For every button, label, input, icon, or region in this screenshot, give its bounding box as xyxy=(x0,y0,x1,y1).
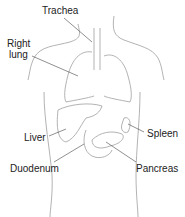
body-outline-right xyxy=(113,16,164,80)
spleen-leader xyxy=(128,124,144,132)
pancreas-leader xyxy=(106,142,136,162)
label-right-lung-line2: lung xyxy=(9,49,28,60)
label-trachea: Trachea xyxy=(42,5,78,16)
label-right-lung-line1: Right xyxy=(7,38,30,49)
spleen xyxy=(121,118,130,133)
label-duodenum: Duodenum xyxy=(10,163,59,174)
right-lung xyxy=(65,52,94,102)
torso-anatomy-illustration xyxy=(0,0,185,217)
left-lung xyxy=(104,55,131,102)
duodenum-leader xyxy=(54,144,84,162)
duodenum xyxy=(84,130,112,158)
liver xyxy=(57,104,102,142)
label-pancreas: Pancreas xyxy=(136,163,178,174)
label-spleen: Spleen xyxy=(147,128,178,139)
label-liver: Liver xyxy=(24,132,46,143)
pancreas xyxy=(92,132,123,148)
trachea-leader xyxy=(64,18,92,42)
body-outline-left xyxy=(28,24,80,80)
